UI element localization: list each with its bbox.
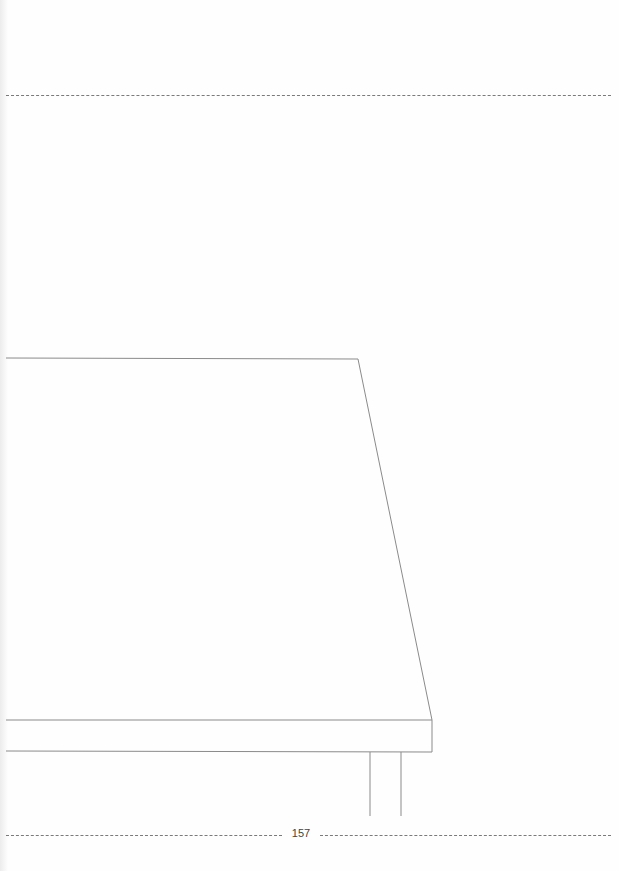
page-number: 157 [282, 827, 320, 839]
bottom-dashed-line-left [6, 835, 282, 836]
document-page: 157 [0, 0, 619, 871]
table-line-drawing [0, 0, 619, 871]
table-edge-outline [6, 720, 432, 752]
bottom-dashed-line-right [320, 835, 611, 836]
table-top-outline [6, 358, 432, 720]
